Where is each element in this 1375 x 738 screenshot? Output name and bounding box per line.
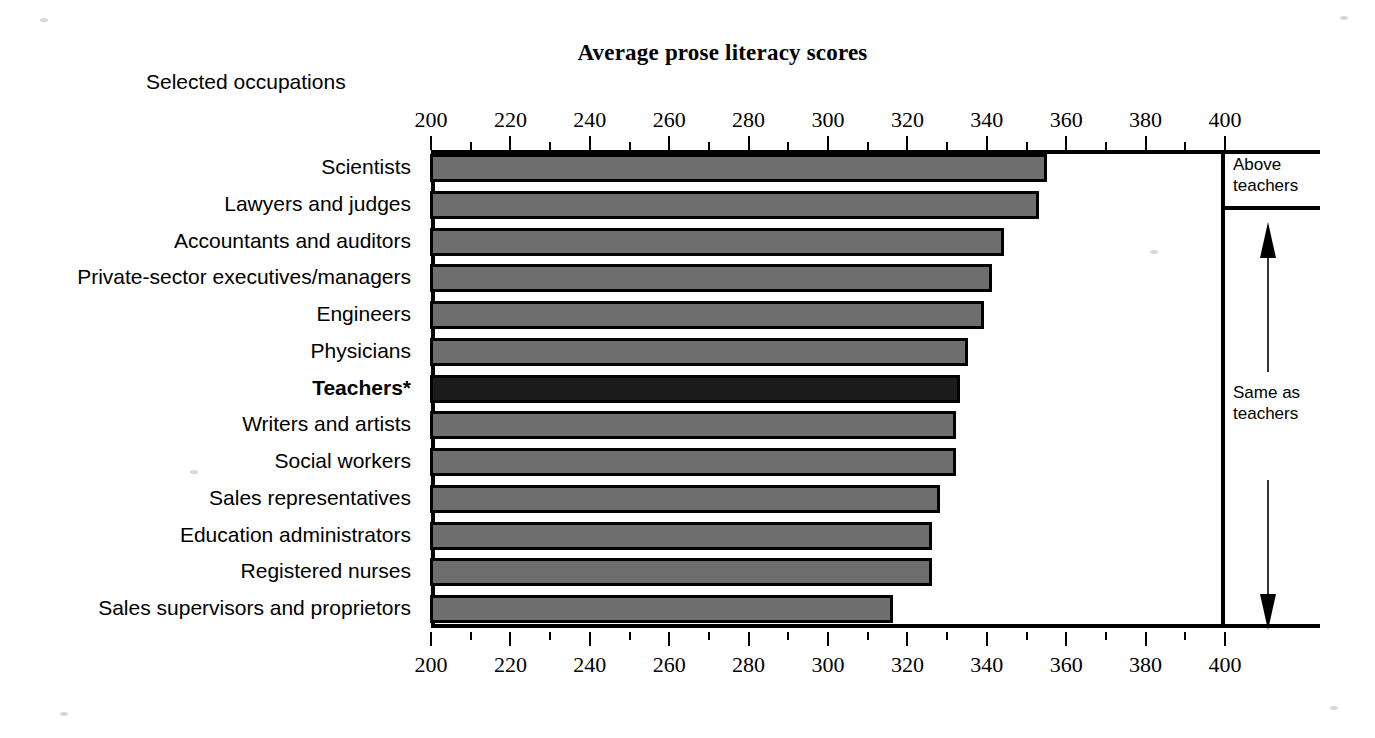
bar-row xyxy=(431,297,1225,333)
bar-row xyxy=(431,371,1225,407)
x-tick-minor xyxy=(867,142,869,150)
x-tick-minor xyxy=(549,142,551,150)
x-tick-label: 340 xyxy=(970,107,1003,133)
x-tick-label: 340 xyxy=(970,652,1003,678)
x-tick-major xyxy=(1145,632,1147,646)
x-tick-major xyxy=(827,136,829,150)
x-tick-major xyxy=(906,632,908,646)
x-tick-minor xyxy=(946,632,948,640)
x-tick-minor xyxy=(867,632,869,640)
x-tick-major xyxy=(986,632,988,646)
x-tick-label: 300 xyxy=(812,107,845,133)
x-tick-label: 400 xyxy=(1209,652,1242,678)
x-axis-ticks-bottom xyxy=(431,632,1225,646)
x-tick-major xyxy=(748,632,750,646)
category-label: Private-sector executives/managers xyxy=(0,265,421,289)
bar-row xyxy=(431,407,1225,443)
x-axis-ticks-top xyxy=(431,136,1225,150)
x-tick-major xyxy=(589,136,591,150)
category-label: Sales representatives xyxy=(0,486,421,510)
bar xyxy=(430,522,932,550)
bar-row xyxy=(431,444,1225,480)
x-tick-label: 380 xyxy=(1129,107,1162,133)
x-axis-labels-bottom: 200220240260280300320340360380400 xyxy=(431,652,1225,678)
x-tick-label: 280 xyxy=(732,107,765,133)
category-label: Education administrators xyxy=(0,523,421,547)
bar-row xyxy=(431,481,1225,517)
x-tick-major xyxy=(1224,632,1226,646)
x-axis-labels-top: 200220240260280300320340360380400 xyxy=(431,107,1225,133)
x-tick-label: 360 xyxy=(1050,107,1083,133)
x-tick-label: 260 xyxy=(653,107,686,133)
arrow-up-icon xyxy=(1257,222,1279,372)
above-teachers-label: Above teachers xyxy=(1233,154,1298,196)
x-tick-major xyxy=(509,632,511,646)
category-label: Physicians xyxy=(0,339,421,363)
bar-row xyxy=(431,334,1225,370)
bar-row xyxy=(431,554,1225,590)
bar-row xyxy=(431,591,1225,627)
x-tick-minor xyxy=(1184,632,1186,640)
x-tick-major xyxy=(827,632,829,646)
x-tick-minor xyxy=(549,632,551,640)
category-label: Scientists xyxy=(0,155,421,179)
x-tick-label: 400 xyxy=(1209,107,1242,133)
x-tick-minor xyxy=(1105,142,1107,150)
category-label: Teachers* xyxy=(0,376,421,400)
y-axis-caption: Selected occupations xyxy=(146,70,346,94)
x-tick-major xyxy=(668,136,670,150)
x-tick-minor xyxy=(629,632,631,640)
x-tick-label: 300 xyxy=(812,652,845,678)
above-teachers-line2: teachers xyxy=(1233,175,1298,196)
category-label: Engineers xyxy=(0,302,421,326)
category-label: Lawyers and judges xyxy=(0,192,421,216)
bar-row xyxy=(431,224,1225,260)
bar xyxy=(430,338,968,366)
x-tick-label: 240 xyxy=(573,652,606,678)
bar xyxy=(430,448,956,476)
x-tick-major xyxy=(1065,136,1067,150)
category-label: Sales supervisors and proprietors xyxy=(0,596,421,620)
bar-row xyxy=(431,518,1225,554)
x-tick-major xyxy=(668,632,670,646)
same-as-teachers-line2: teachers xyxy=(1233,403,1300,424)
x-tick-major xyxy=(906,136,908,150)
bar xyxy=(430,301,984,329)
x-tick-minor xyxy=(946,142,948,150)
x-tick-minor xyxy=(787,142,789,150)
bar-row xyxy=(431,260,1225,296)
x-tick-minor xyxy=(470,632,472,640)
x-tick-label: 360 xyxy=(1050,652,1083,678)
scan-artifact xyxy=(1340,16,1348,20)
x-tick-major xyxy=(1224,136,1226,150)
x-tick-major xyxy=(986,136,988,150)
bar-row xyxy=(431,187,1225,223)
x-tick-label: 320 xyxy=(891,652,924,678)
x-tick-minor xyxy=(629,142,631,150)
x-tick-minor xyxy=(1026,632,1028,640)
x-tick-major xyxy=(748,136,750,150)
same-as-teachers-label: Same as teachers xyxy=(1233,382,1300,424)
x-tick-minor xyxy=(470,142,472,150)
category-label: Writers and artists xyxy=(0,412,421,436)
arrow-down-icon xyxy=(1257,480,1279,630)
bar xyxy=(430,558,932,586)
bar xyxy=(430,154,1047,182)
scan-artifact xyxy=(1150,250,1158,254)
annotation-panel: Above teachers Same as teachers xyxy=(1221,150,1375,632)
x-tick-label: 200 xyxy=(415,107,448,133)
bar xyxy=(430,411,956,439)
x-tick-label: 260 xyxy=(653,652,686,678)
bar xyxy=(430,375,960,403)
x-tick-major xyxy=(1065,632,1067,646)
x-tick-label: 240 xyxy=(573,107,606,133)
x-tick-minor xyxy=(708,142,710,150)
x-tick-minor xyxy=(787,632,789,640)
x-tick-label: 220 xyxy=(494,652,527,678)
same-as-teachers-line1: Same as xyxy=(1233,382,1300,403)
scan-artifact xyxy=(190,470,198,474)
scan-artifact xyxy=(40,18,48,22)
chart-title: Average prose literacy scores xyxy=(0,40,1375,66)
category-label: Registered nurses xyxy=(0,559,421,583)
bar xyxy=(430,228,1004,256)
